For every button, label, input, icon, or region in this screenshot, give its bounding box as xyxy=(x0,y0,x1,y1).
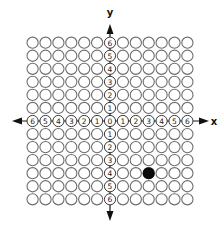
grid-circle[interactable] xyxy=(117,89,128,100)
grid-circle[interactable] xyxy=(40,89,51,100)
grid-circle[interactable] xyxy=(40,155,51,166)
grid-circle[interactable] xyxy=(169,155,180,166)
grid-circle[interactable] xyxy=(66,168,77,179)
grid-circle[interactable] xyxy=(117,181,128,192)
grid-circle[interactable] xyxy=(156,168,167,179)
grid-circle[interactable] xyxy=(169,142,180,153)
grid-circle[interactable] xyxy=(53,37,64,48)
grid-circle[interactable] xyxy=(169,63,180,74)
grid-circle[interactable] xyxy=(117,155,128,166)
grid-circle[interactable] xyxy=(156,194,167,205)
grid-circle[interactable] xyxy=(130,37,141,48)
grid-circle[interactable] xyxy=(53,89,64,100)
grid-circle[interactable] xyxy=(27,102,38,113)
grid-circle[interactable] xyxy=(53,76,64,87)
grid-circle[interactable] xyxy=(130,155,141,166)
grid-circle[interactable] xyxy=(130,181,141,192)
grid-circle[interactable] xyxy=(40,102,51,113)
grid-circle[interactable] xyxy=(182,142,193,153)
grid-circle[interactable] xyxy=(92,194,103,205)
grid-circle[interactable] xyxy=(143,102,154,113)
plotted-point[interactable] xyxy=(143,167,155,179)
grid-circle[interactable] xyxy=(53,168,64,179)
grid-circle[interactable] xyxy=(182,37,193,48)
grid-circle[interactable] xyxy=(169,128,180,139)
grid-circle[interactable] xyxy=(156,181,167,192)
grid-circle[interactable] xyxy=(143,181,154,192)
grid-circle[interactable] xyxy=(143,194,154,205)
grid-circle[interactable] xyxy=(66,155,77,166)
grid-circle[interactable] xyxy=(27,181,38,192)
grid-circle[interactable] xyxy=(182,89,193,100)
grid-circle[interactable] xyxy=(130,76,141,87)
grid-circle[interactable] xyxy=(169,76,180,87)
grid-circle[interactable] xyxy=(40,63,51,74)
grid-circle[interactable] xyxy=(66,89,77,100)
grid-circle[interactable] xyxy=(66,142,77,153)
grid-circle[interactable] xyxy=(27,194,38,205)
grid-circle[interactable] xyxy=(79,128,90,139)
grid-circle[interactable] xyxy=(169,50,180,61)
grid-circle[interactable] xyxy=(130,142,141,153)
grid-circle[interactable] xyxy=(143,155,154,166)
grid-circle[interactable] xyxy=(143,89,154,100)
grid-circle[interactable] xyxy=(92,37,103,48)
grid-circle[interactable] xyxy=(66,76,77,87)
grid-circle[interactable] xyxy=(143,142,154,153)
grid-circle[interactable] xyxy=(66,37,77,48)
grid-circle[interactable] xyxy=(130,89,141,100)
grid-circle[interactable] xyxy=(53,194,64,205)
grid-circle[interactable] xyxy=(27,128,38,139)
grid-circle[interactable] xyxy=(130,63,141,74)
grid-circle[interactable] xyxy=(66,63,77,74)
grid-circle[interactable] xyxy=(169,89,180,100)
grid-circle[interactable] xyxy=(53,181,64,192)
grid-circle[interactable] xyxy=(92,128,103,139)
grid-circle[interactable] xyxy=(117,50,128,61)
grid-circle[interactable] xyxy=(40,76,51,87)
grid-circle[interactable] xyxy=(79,194,90,205)
grid-circle[interactable] xyxy=(27,63,38,74)
grid-circle[interactable] xyxy=(156,102,167,113)
grid-circle[interactable] xyxy=(156,142,167,153)
grid-circle[interactable] xyxy=(66,128,77,139)
grid-circle[interactable] xyxy=(182,63,193,74)
grid-circle[interactable] xyxy=(40,194,51,205)
grid-circle[interactable] xyxy=(130,50,141,61)
grid-circle[interactable] xyxy=(156,76,167,87)
grid-circle[interactable] xyxy=(182,128,193,139)
grid-circle[interactable] xyxy=(117,168,128,179)
grid-circle[interactable] xyxy=(169,181,180,192)
grid-circle[interactable] xyxy=(156,50,167,61)
grid-circle[interactable] xyxy=(92,89,103,100)
grid-circle[interactable] xyxy=(27,50,38,61)
grid-circle[interactable] xyxy=(79,102,90,113)
grid-circle[interactable] xyxy=(27,37,38,48)
grid-circle[interactable] xyxy=(79,181,90,192)
grid-circle[interactable] xyxy=(117,128,128,139)
grid-circle[interactable] xyxy=(53,142,64,153)
grid-circle[interactable] xyxy=(79,37,90,48)
grid-circle[interactable] xyxy=(40,142,51,153)
grid-circle[interactable] xyxy=(92,76,103,87)
grid-circle[interactable] xyxy=(79,76,90,87)
grid-circle[interactable] xyxy=(53,155,64,166)
grid-circle[interactable] xyxy=(40,128,51,139)
grid-circle[interactable] xyxy=(92,142,103,153)
grid-circle[interactable] xyxy=(66,194,77,205)
grid-circle[interactable] xyxy=(27,142,38,153)
grid-circle[interactable] xyxy=(79,155,90,166)
grid-circle[interactable] xyxy=(143,128,154,139)
grid-circle[interactable] xyxy=(143,76,154,87)
grid-circle[interactable] xyxy=(92,102,103,113)
grid-circle[interactable] xyxy=(156,63,167,74)
grid-circle[interactable] xyxy=(130,128,141,139)
grid-circle[interactable] xyxy=(79,142,90,153)
grid-circle[interactable] xyxy=(66,50,77,61)
grid-circle[interactable] xyxy=(143,37,154,48)
grid-circle[interactable] xyxy=(117,63,128,74)
grid-circle[interactable] xyxy=(92,181,103,192)
grid-circle[interactable] xyxy=(40,181,51,192)
grid-circle[interactable] xyxy=(182,76,193,87)
grid-circle[interactable] xyxy=(182,102,193,113)
